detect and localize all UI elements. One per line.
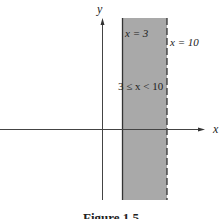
shaded-region: [122, 18, 167, 200]
y-axis-label: y: [97, 3, 102, 15]
region-inequality-label: 3 ≤ x < 10: [118, 81, 163, 92]
figure-caption: Figure 1.5: [0, 210, 222, 219]
coordinate-plane: [0, 0, 222, 219]
x-axis-label: x: [213, 123, 218, 135]
right-boundary-label: x = 10: [170, 37, 199, 48]
y-axis-arrow-icon: [101, 18, 105, 25]
x-axis-arrow-icon: [198, 128, 205, 132]
left-boundary-label: x = 3: [125, 28, 148, 39]
